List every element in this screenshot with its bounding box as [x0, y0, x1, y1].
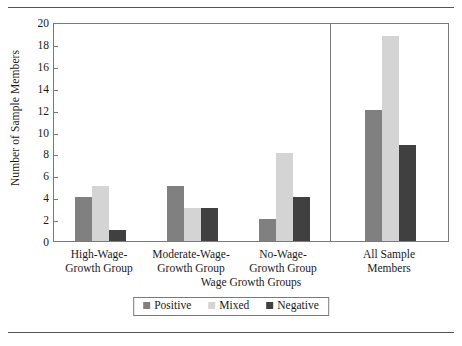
- x-axis-title: Wage Growth Groups: [53, 276, 449, 288]
- bar-positive-1: [167, 186, 184, 241]
- bar-chart-figure: Number of Sample Members 024681012141618…: [0, 14, 462, 330]
- plot-area: 02468101214161820: [53, 23, 449, 242]
- bar-mixed-3: [382, 36, 399, 241]
- y-tick-mark-14: [54, 90, 58, 91]
- y-tick-label-6: 6: [27, 172, 49, 184]
- y-tick-label-8: 8: [27, 150, 49, 162]
- y-tick-label-18: 18: [27, 40, 49, 52]
- chart-legend: PositiveMixedNegative: [133, 297, 329, 316]
- y-tick-label-4: 4: [27, 193, 49, 205]
- legend-item-positive: Positive: [143, 300, 191, 312]
- bar-mixed-0: [92, 186, 109, 241]
- bar-mixed-1: [184, 208, 201, 241]
- y-tick-mark-8: [54, 155, 58, 156]
- legend-label-mixed: Mixed: [219, 300, 249, 312]
- bar-positive-3: [365, 110, 382, 241]
- y-tick-mark-12: [54, 112, 58, 113]
- y-tick-label-16: 16: [27, 62, 49, 74]
- y-tick-label-20: 20: [27, 18, 49, 30]
- y-tick-mark-18: [54, 46, 58, 47]
- legend-item-mixed: Mixed: [208, 300, 249, 312]
- y-tick-mark-6: [54, 177, 58, 178]
- y-tick-mark-2: [54, 221, 58, 222]
- bar-positive-0: [75, 197, 92, 241]
- group-separator-line: [330, 24, 331, 241]
- bar-mixed-2: [276, 153, 293, 241]
- top-horizontal-rule: [8, 7, 454, 8]
- x-category-label-3-line-1: Members: [299, 262, 462, 276]
- legend-item-negative: Negative: [266, 300, 319, 312]
- legend-label-positive: Positive: [154, 300, 191, 312]
- y-tick-label-2: 2: [27, 215, 49, 227]
- x-category-label-3-line-0: All Sample: [299, 248, 462, 262]
- bar-negative-2: [293, 197, 310, 241]
- bottom-horizontal-rule: [8, 332, 454, 333]
- y-tick-mark-16: [54, 68, 58, 69]
- legend-swatch-positive: [143, 302, 150, 309]
- bar-negative-1: [201, 208, 218, 241]
- y-tick-label-10: 10: [27, 128, 49, 140]
- legend-swatch-negative: [266, 302, 273, 309]
- bar-positive-2: [259, 219, 276, 241]
- y-axis-title: Number of Sample Members: [9, 18, 21, 218]
- bar-negative-3: [399, 145, 416, 241]
- legend-label-negative: Negative: [277, 300, 319, 312]
- y-tick-label-14: 14: [27, 84, 49, 96]
- legend-swatch-mixed: [208, 302, 215, 309]
- y-tick-label-12: 12: [27, 106, 49, 118]
- x-category-label-3: All SampleMembers: [299, 248, 462, 275]
- bar-negative-0: [109, 230, 126, 241]
- y-tick-mark-4: [54, 199, 58, 200]
- y-tick-mark-10: [54, 134, 58, 135]
